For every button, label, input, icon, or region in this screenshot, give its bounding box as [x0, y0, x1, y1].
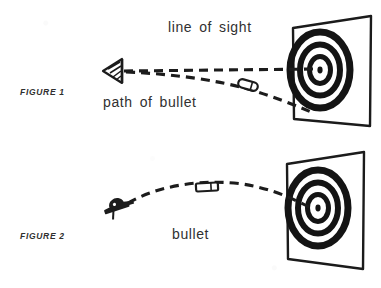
diagram-canvas: [0, 0, 381, 288]
diagram-root: line of sight path of bullet FIGURE 1 bu…: [0, 0, 381, 288]
path-of-bullet-label: path of bullet: [103, 95, 197, 109]
bullseye-rings: [288, 170, 348, 246]
target-panel: [287, 152, 364, 269]
bullseye-rings: [290, 32, 350, 108]
line-of-sight-label: line of sight: [168, 20, 252, 34]
bullet-icon: [237, 78, 259, 92]
figure-1-caption: FIGURE 1: [20, 88, 65, 97]
bullet-icon: [196, 182, 218, 191]
figure-2-caption: FIGURE 2: [20, 232, 65, 241]
bullet-label: bullet: [172, 227, 209, 241]
eye-sight-icon: [103, 59, 122, 83]
gun-icon: [102, 194, 136, 221]
figure-2-group: [102, 152, 364, 269]
